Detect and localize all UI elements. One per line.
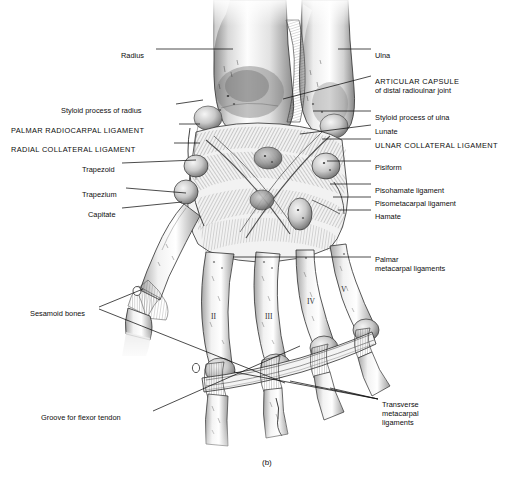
label-subtext: metacarpal [382, 409, 419, 418]
metacarpal-iii: III [265, 312, 273, 321]
label-text: Trapezium [82, 190, 117, 199]
label-articular-capsule: ARTICULAR CAPSULEof distal radioulnar jo… [375, 77, 459, 95]
label-text: Radius [121, 51, 144, 60]
label-palmar-metacarpal-ligaments: Palmarmetacarpal ligaments [375, 255, 445, 273]
label-lunate: Lunate [375, 127, 398, 136]
label-trapezoid: Trapezoid [82, 165, 115, 174]
label-trapezium: Trapezium [82, 190, 117, 199]
metacarpal-iv: IV [307, 297, 315, 306]
label-subtext: metacarpal ligaments [375, 264, 445, 273]
metacarpal-ii: II [211, 312, 216, 321]
label-pisometacarpal-ligament: Pisometacarpal ligament [375, 199, 456, 208]
label-text: Palmar [375, 255, 445, 264]
label-text: Hamate [375, 212, 401, 221]
label-text: Capitate [88, 210, 116, 219]
label-styloid-process-of-ulna: Styloid process of ulna [375, 113, 449, 122]
label-text: RADIAL COLLATERAL LIGAMENT [11, 145, 136, 154]
label-styloid-process-of-radius: Styloid process of radius [61, 106, 142, 115]
label-text: Lunate [375, 127, 398, 136]
figure-caption: (b) [262, 458, 272, 467]
label-transverse-metacarpal-ligaments: Transversemetacarpalligaments [382, 400, 419, 427]
wrist-ligaments-illustration [0, 0, 515, 477]
label-ulna: Ulna [375, 51, 390, 60]
label-text: Pisohamate ligament [375, 186, 444, 195]
anatomy-figure: RadiusStyloid process of radiusPALMAR RA… [0, 0, 515, 477]
label-text: Transverse [382, 400, 419, 409]
label-text: Groove for flexor tendon [41, 413, 121, 422]
label-text: Styloid process of ulna [375, 113, 449, 122]
label-text: Styloid process of radius [61, 106, 142, 115]
label-text: Ulna [375, 51, 390, 60]
label-pisiform: Pisiform [375, 163, 402, 172]
label-sesamoid-bones: Sesamoid bones [30, 309, 85, 318]
label-groove-for-flexor-tendon: Groove for flexor tendon [41, 413, 121, 422]
label-text: ULNAR COLLATERAL LIGAMENT [375, 141, 498, 150]
label-ulnar-collateral-ligament: ULNAR COLLATERAL LIGAMENT [375, 141, 498, 150]
label-palmar-radiocarpal-ligament: PALMAR RADIOCARPAL LIGAMENT [11, 126, 144, 135]
label-pisohamate-ligament: Pisohamate ligament [375, 186, 444, 195]
label-capitate: Capitate [88, 210, 116, 219]
label-hamate: Hamate [375, 212, 401, 221]
label-text: Pisometacarpal ligament [375, 199, 456, 208]
label-text: Pisiform [375, 163, 402, 172]
label-text: ARTICULAR CAPSULE [375, 77, 459, 86]
carpal-ligament-mass [174, 123, 348, 262]
label-text: Sesamoid bones [30, 309, 85, 318]
label-subtext: of distal radioulnar joint [375, 86, 459, 95]
label-radius: Radius [121, 51, 144, 60]
metacarpal-v: V [341, 285, 346, 294]
label-text: Trapezoid [82, 165, 115, 174]
label-text: PALMAR RADIOCARPAL LIGAMENT [11, 126, 144, 135]
label-subtext: ligaments [382, 418, 419, 427]
label-radial-collateral-ligament: RADIAL COLLATERAL LIGAMENT [11, 145, 136, 154]
